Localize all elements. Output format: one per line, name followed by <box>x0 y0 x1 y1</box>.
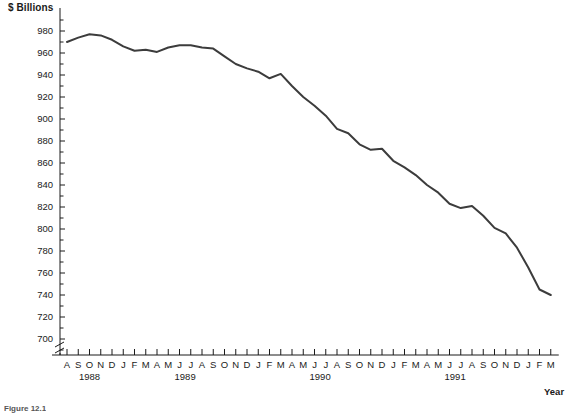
x-axis-tick-label: F <box>537 359 543 370</box>
x-axis-tick-label: M <box>412 359 420 370</box>
line-chart-plot: 7007207407607808008208408608809009209409… <box>0 0 586 414</box>
x-axis-tick-label: J <box>188 359 193 370</box>
x-axis-tick-label: M <box>299 359 307 370</box>
x-axis-year-label: 1990 <box>310 371 331 382</box>
x-axis-tick-label: A <box>199 359 206 370</box>
chart-container: $ Billions 70072074076078080082084086088… <box>0 0 586 414</box>
x-axis-tick-label: A <box>334 359 341 370</box>
y-axis-tick-label: 840 <box>37 179 53 190</box>
x-axis-tick-label: M <box>277 359 285 370</box>
x-axis-tick-label: F <box>402 359 408 370</box>
y-axis-tick-label: 720 <box>37 311 53 322</box>
x-axis-year-label: 1989 <box>175 371 196 382</box>
x-axis-tick-label: N <box>502 359 509 370</box>
y-axis-tick-label: 860 <box>37 157 53 168</box>
x-axis-tick-label: J <box>121 359 126 370</box>
y-axis-tick-label: 960 <box>37 47 53 58</box>
x-axis-tick-label: A <box>424 359 431 370</box>
x-axis-year-label: 1991 <box>445 371 466 382</box>
y-axis-tick-label: 920 <box>37 91 53 102</box>
y-axis-tick-label: 760 <box>37 267 53 278</box>
y-axis-tick-label: 900 <box>37 113 53 124</box>
y-axis-tick-label: 980 <box>37 25 53 36</box>
x-axis-tick-label: O <box>491 359 498 370</box>
x-axis-tick-label: D <box>379 359 386 370</box>
x-axis-tick-label: J <box>256 359 261 370</box>
x-axis-tick-label: S <box>75 359 81 370</box>
x-axis-tick-label: A <box>469 359 476 370</box>
x-axis-tick-label: D <box>514 359 521 370</box>
x-axis: ASONDJFMAMJJASONDJFMAMJJASONDJFMAMJJASON… <box>52 349 559 382</box>
y-axis-tick-label: 820 <box>37 201 53 212</box>
y-axis-tick-label: 880 <box>37 135 53 146</box>
data-series-line <box>67 34 551 295</box>
y-axis-tick-label: 700 <box>37 333 53 344</box>
x-axis-tick-label: O <box>86 359 93 370</box>
x-axis-title: Year <box>544 386 564 397</box>
y-axis-tick-label: 800 <box>37 223 53 234</box>
x-axis-tick-label: O <box>356 359 363 370</box>
x-axis-tick-label: J <box>526 359 531 370</box>
x-axis-tick-label: A <box>154 359 161 370</box>
x-axis-tick-label: N <box>367 359 374 370</box>
x-axis-tick-label: J <box>323 359 328 370</box>
x-axis-tick-label: J <box>458 359 463 370</box>
x-axis-tick-label: M <box>547 359 555 370</box>
x-axis-tick-label: A <box>64 359 71 370</box>
x-axis-tick-label: S <box>480 359 486 370</box>
x-axis-tick-label: F <box>267 359 273 370</box>
x-axis-tick-label: M <box>142 359 150 370</box>
x-axis-year-label: 1988 <box>79 371 100 382</box>
x-axis-tick-label: J <box>177 359 182 370</box>
x-axis-tick-label: O <box>221 359 228 370</box>
x-axis-tick-label: S <box>210 359 216 370</box>
y-axis-tick-label: 740 <box>37 289 53 300</box>
x-axis-tick-label: D <box>109 359 116 370</box>
x-axis-tick-label: M <box>164 359 172 370</box>
x-axis-tick-label: J <box>312 359 317 370</box>
x-axis-tick-label: A <box>289 359 296 370</box>
x-axis-tick-label: F <box>132 359 138 370</box>
x-axis-tick-label: J <box>391 359 396 370</box>
x-axis-tick-label: N <box>97 359 104 370</box>
y-axis: 7007207407607808008208408608809009209409… <box>37 8 65 355</box>
y-axis-tick-label: 780 <box>37 245 53 256</box>
x-axis-tick-label: J <box>447 359 452 370</box>
x-axis-tick-label: M <box>434 359 442 370</box>
x-axis-tick-label: D <box>244 359 251 370</box>
y-axis-tick-label: 940 <box>37 69 53 80</box>
x-axis-tick-label: N <box>232 359 239 370</box>
figure-caption: Figure 12.1 <box>4 404 46 414</box>
x-axis-tick-label: S <box>345 359 351 370</box>
